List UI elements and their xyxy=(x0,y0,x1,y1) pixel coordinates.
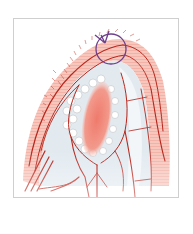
vascular-diagram xyxy=(14,19,179,198)
figure-frame xyxy=(13,18,179,198)
